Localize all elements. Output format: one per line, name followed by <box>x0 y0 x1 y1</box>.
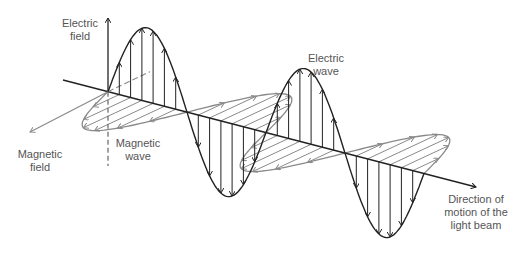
propagation-axis <box>63 80 476 187</box>
magnetic-field-vector <box>83 100 141 127</box>
electric-wave-label: Electric wave <box>302 52 350 78</box>
magnetic-field-label: Magnetic field <box>12 148 68 174</box>
electric-wave <box>108 28 424 238</box>
electric-field-label: Electric field <box>56 17 104 43</box>
electric-wave-curve <box>108 28 424 238</box>
magnetic-field-vector <box>241 141 299 168</box>
direction-label: Direction of motion of the light beam <box>436 193 516 232</box>
magnetic-field-vector <box>390 138 448 165</box>
magnetic-wave-label: Magnetic wave <box>110 137 166 163</box>
magnetic-field-vector <box>232 97 290 124</box>
magnetic-field-axis <box>30 92 108 132</box>
